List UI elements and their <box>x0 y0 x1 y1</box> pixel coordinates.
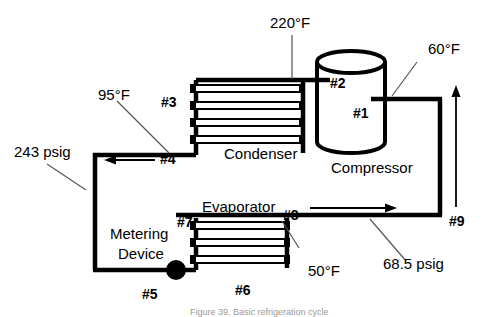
node-2-label: #2 <box>330 76 346 90</box>
condenser-coil <box>190 80 305 155</box>
condenser-tube-4-bore <box>196 137 299 142</box>
compressor-top-ellipse <box>317 51 385 73</box>
evaporator-tube-2-bore <box>196 240 284 245</box>
evaporator-tube-1-bore <box>196 223 284 228</box>
condenser-tube-1-bore <box>196 86 299 91</box>
condenser-tube-3-bore <box>196 120 299 125</box>
evaporator-tube-3-bore <box>196 257 284 262</box>
leader-suction-temp <box>392 62 417 96</box>
high-pressure-label: 243 psig <box>14 144 71 159</box>
leader-high-pressure <box>47 164 86 190</box>
node-9-label: #9 <box>449 214 465 228</box>
refrigeration-cycle-diagram: 220°F 60°F 95°F 243 psig 50°F 68.5 psig … <box>0 0 492 317</box>
metering-device-label-line2: Device <box>118 246 164 261</box>
node-8-label: #8 <box>283 208 299 222</box>
node-1-label: #1 <box>353 106 369 120</box>
metering-device-label-line1: Metering <box>110 226 168 241</box>
flow-arrow-suction-line <box>310 204 397 213</box>
suction-temperature-label: 60°F <box>428 41 460 56</box>
flow-arrow-8-head <box>385 204 397 213</box>
compressor-label: Compressor <box>331 160 413 175</box>
compressor-bottom-arc <box>317 142 385 153</box>
low-pressure-label: 68.5 psig <box>383 256 444 271</box>
metering-device-symbol <box>166 260 186 280</box>
liquid-temperature-label: 95°F <box>98 87 130 102</box>
node-6-label: #6 <box>235 283 251 297</box>
condenser-tube-2-bore <box>196 103 299 108</box>
node-3-label: #3 <box>161 95 177 109</box>
node-7-label: #7 <box>177 215 193 229</box>
evaporator-label: Evaporator <box>202 199 275 214</box>
compressor-cylinder <box>317 51 385 153</box>
flow-arrow-9-head <box>452 85 461 97</box>
node-4-label: #4 <box>160 152 176 166</box>
flow-arrow-riser <box>452 85 461 207</box>
figure-caption: Figure 39. Basic refrigeration cycle <box>190 308 329 317</box>
evaporator-temperature-label: 50°F <box>308 263 340 278</box>
discharge-temperature-label: 220°F <box>270 15 310 30</box>
condenser-label: Condenser <box>224 146 297 161</box>
node-5-label: #5 <box>142 287 158 301</box>
evaporator-coil <box>190 218 290 270</box>
